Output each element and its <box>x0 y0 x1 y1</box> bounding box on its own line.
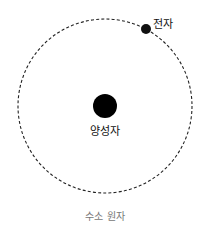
electron-particle <box>141 24 151 34</box>
hydrogen-atom-diagram: 전자 양성자 수소 원자 <box>0 0 207 242</box>
proton-nucleus <box>93 94 117 118</box>
electron-label: 전자 <box>153 19 173 30</box>
proton-label: 양성자 <box>90 126 120 137</box>
diagram-caption: 수소 원자 <box>85 212 124 222</box>
atom-svg <box>0 0 207 242</box>
